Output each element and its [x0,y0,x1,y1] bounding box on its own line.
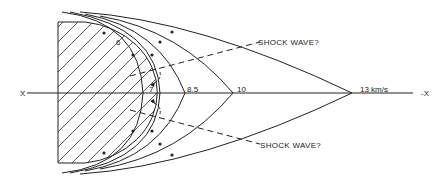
axis-label-left: X [20,89,26,98]
axis-label-right: -X [421,89,430,98]
velocity-label-6: 6 [116,38,121,47]
flow-diagram: X -X SHOCK WAVE? SHOCK WAVE? 6 7 8.5 10 … [0,0,448,185]
velocity-label-7: 7 [149,85,154,94]
velocity-label-8-5: 8.5 [187,85,199,94]
velocity-label-13: 13 km/s [360,85,388,94]
velocity-label-10: 10 [237,85,246,94]
shock-wave-label-lower: SHOCK WAVE? [260,141,321,150]
shock-wave-label-upper: SHOCK WAVE? [258,38,319,47]
